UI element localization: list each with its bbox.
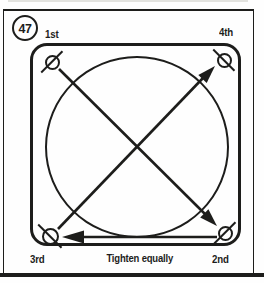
arrow-2nd-to-3rd (62, 231, 217, 244)
arrow-head-icon (62, 231, 84, 244)
sequence-label-top-right: 4th (219, 26, 235, 38)
bolt-icon-bottom-right (218, 226, 233, 241)
arrow-shaft (58, 78, 203, 229)
figure-number: 47 (19, 21, 32, 36)
sequence-label-top-left: 1st (45, 28, 60, 40)
sequence-label-bottom-right: 2nd (212, 253, 231, 265)
bolt-icon-top-left (45, 55, 60, 70)
tighten-sequence-arrows (0, 0, 264, 283)
figure-canvas: 47 1st 4th 3rd 2nd Tighten equally (0, 0, 264, 283)
bolt-icon-top-right (217, 53, 232, 68)
bolt-icon-bottom-left (42, 228, 59, 245)
arrow-shaft (59, 69, 205, 214)
sequence-label-bottom-left: 3rd (30, 253, 47, 265)
figure-number-badge: 47 (12, 15, 38, 41)
caption-tighten-equally: Tighten equally (75, 252, 205, 265)
